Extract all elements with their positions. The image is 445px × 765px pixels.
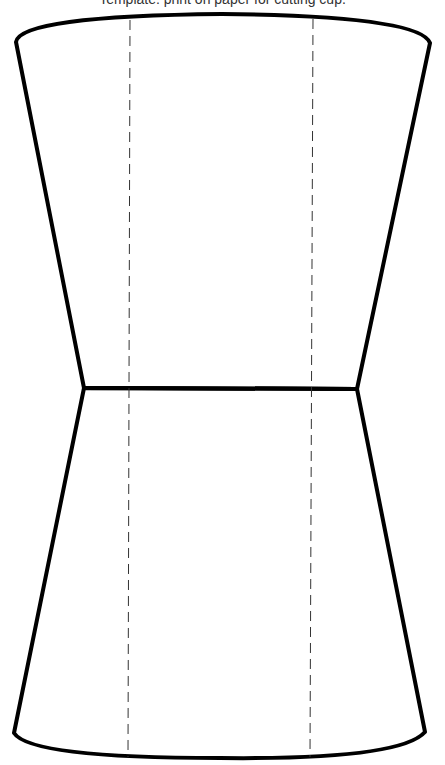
- upper-panel-outline: [16, 14, 430, 389]
- cup-template-diagram: [0, 0, 445, 765]
- waist-line: [84, 388, 357, 389]
- lower-panel-outline: [14, 388, 425, 758]
